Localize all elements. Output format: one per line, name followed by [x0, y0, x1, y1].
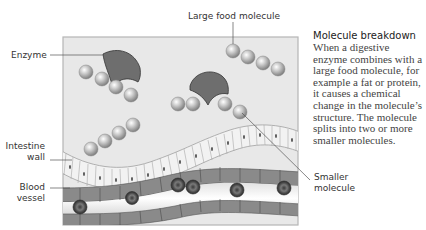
label-smaller-molecule-line1: Smaller: [314, 172, 355, 183]
label-smaller-molecule: Smaller molecule: [314, 172, 355, 194]
label-intestine-wall-line1: Intestine: [0, 141, 45, 152]
label-large-food-molecule: Large food molecule: [188, 11, 280, 22]
sidebar-body: When a digestive enzyme combines with a …: [313, 42, 425, 146]
label-blood-vessel-line1: Blood: [0, 182, 45, 193]
label-intestine-wall-line2: wall: [0, 152, 45, 163]
label-enzyme: Enzyme: [11, 50, 47, 61]
label-blood-vessel: Blood vessel: [0, 182, 45, 204]
label-smaller-molecule-line2: molecule: [314, 183, 355, 194]
explanation-sidebar: Molecule breakdown When a digestive enzy…: [313, 29, 425, 146]
label-intestine-wall: Intestine wall: [0, 141, 45, 163]
label-blood-vessel-line2: vessel: [0, 193, 45, 204]
